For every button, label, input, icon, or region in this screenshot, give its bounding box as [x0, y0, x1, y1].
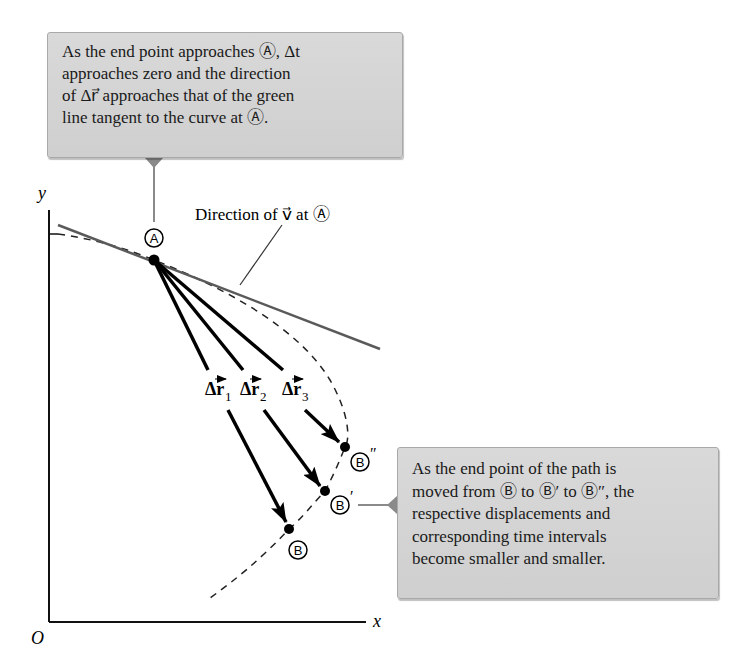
svg-text:B: B: [294, 543, 303, 558]
svg-text:B: B: [356, 455, 365, 470]
svg-text:A: A: [150, 231, 159, 246]
dr1-label: Δr 1: [205, 379, 232, 404]
tangent-label-leader: [240, 225, 282, 285]
callout-right: As the end point of the path is moved fr…: [397, 447, 719, 599]
svg-text:Δr: Δr: [205, 379, 224, 399]
point-b-prime-dot: [320, 486, 330, 496]
vector-dr3-lower: [305, 410, 339, 442]
dr3-label: Δr 3: [282, 379, 309, 404]
point-a-dot: [149, 255, 160, 266]
svg-text:″: ″: [370, 445, 377, 462]
dr2-label: Δr 2: [240, 379, 267, 404]
svg-text:B: B: [336, 498, 345, 513]
point-b-label: B: [289, 541, 307, 559]
callout-top-line-3: of Δr⃗ approaches that of the green: [62, 85, 392, 107]
point-b-double-prime-dot: [340, 442, 350, 452]
svg-text:′: ′: [350, 488, 354, 505]
callout-right-pointer: [387, 496, 397, 514]
svg-text:1: 1: [225, 389, 232, 404]
y-axis-label: y: [36, 183, 46, 203]
callout-right-line-1: As the end point of the path is: [412, 458, 708, 481]
callout-top-line-1: As the end point approaches Ⓐ, Δt: [62, 41, 392, 63]
svg-text:2: 2: [260, 389, 267, 404]
origin-label: O: [31, 628, 44, 648]
point-b-double-prime-label: B ″: [351, 445, 377, 471]
point-b-prime-label: B ′: [331, 488, 354, 514]
callout-top-pointer: [145, 158, 163, 168]
svg-text:Δr: Δr: [240, 379, 259, 399]
vector-dr2-lower: [264, 410, 320, 486]
axes: [49, 210, 366, 622]
callout-right-line-5: become smaller and smaller.: [412, 548, 708, 571]
callout-top-line-2: approaches zero and the direction: [62, 63, 392, 85]
tangent-line: [58, 225, 380, 349]
callout-top-line-4: line tangent to the curve at Ⓐ.: [62, 107, 392, 129]
callout-right-line-2: moved from Ⓑ to Ⓑ′ to Ⓑ″, the: [412, 481, 708, 504]
callout-top: As the end point approaches Ⓐ, Δt approa…: [47, 32, 403, 158]
point-b-dot: [284, 524, 294, 534]
callout-right-line-4: corresponding time intervals: [412, 526, 708, 549]
svg-text:3: 3: [302, 389, 309, 404]
svg-text:Δr: Δr: [282, 379, 301, 399]
point-a-label: A: [145, 229, 163, 247]
x-axis-label: x: [372, 611, 381, 631]
tangent-label: Direction of v⃗ at Ⓐ: [195, 205, 330, 224]
callout-right-line-3: respective displacements and: [412, 503, 708, 526]
